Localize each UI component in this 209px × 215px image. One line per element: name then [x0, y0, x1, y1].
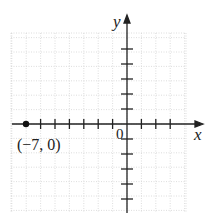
y-axis-label: y: [111, 12, 121, 31]
coordinate-plane: y x 0 (−7, 0): [0, 0, 209, 215]
point-label: (−7, 0): [17, 136, 61, 154]
point-marker: [23, 121, 29, 127]
origin-label: 0: [116, 126, 124, 142]
x-axis-label: x: [193, 125, 202, 144]
